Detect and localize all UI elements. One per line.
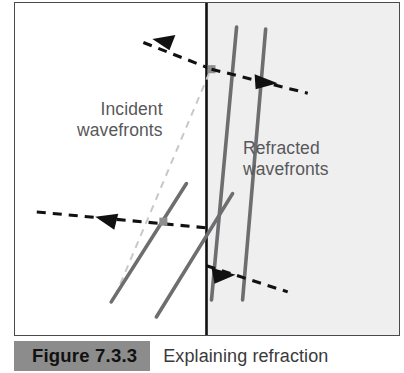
refraction-diagram (15, 3, 399, 335)
figure-container: Incidentwavefronts Refractedwavefronts F… (0, 0, 404, 373)
refracted-label-line-2: wavefronts (243, 159, 329, 179)
refracted-wavefronts-label: Refractedwavefronts (243, 138, 329, 179)
figure-number-badge: Figure 7.3.3 (14, 341, 150, 371)
lower-ray-construction-node (159, 218, 167, 226)
incident-label-line-1: Incident (101, 99, 163, 119)
diagram-frame: Incidentwavefronts Refractedwavefronts (14, 2, 400, 336)
figure-caption-text: Explaining refraction (150, 341, 328, 371)
incident-wavefronts-label: Incidentwavefronts (77, 99, 163, 140)
incident-label-line-2: wavefronts (77, 120, 163, 140)
figure-caption: Figure 7.3.3 Explaining refraction (14, 341, 400, 371)
refracted-label-line-1: Refracted (243, 138, 320, 158)
